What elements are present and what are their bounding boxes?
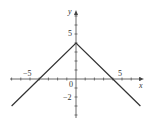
- y-tick-label-5: 5: [68, 29, 72, 38]
- y-axis-arrow-icon: [74, 10, 78, 15]
- x-tick-label-5: 5: [118, 69, 122, 78]
- origin-label: 0: [69, 80, 73, 89]
- x-tick-label-neg5: −5: [23, 69, 32, 78]
- graph-plot: x y 0 −5 5 5 −2: [0, 0, 154, 123]
- y-tick-label-neg2: −2: [63, 93, 72, 102]
- x-axis-label: x: [138, 81, 143, 90]
- y-axis-label: y: [67, 7, 72, 16]
